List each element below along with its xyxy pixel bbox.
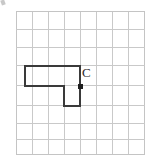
l-shape-polygon <box>25 66 80 106</box>
point-c-marker <box>78 84 83 89</box>
point-c-label: C <box>82 66 91 79</box>
figure-canvas: C <box>0 0 157 166</box>
shape-layer <box>0 0 157 166</box>
